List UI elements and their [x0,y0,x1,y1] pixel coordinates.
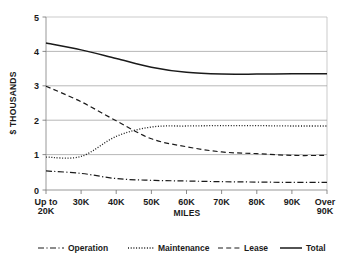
y-tick-label: 1 [34,150,39,160]
y-tick-label: 3 [34,81,39,91]
line-chart-figure: 5 4 3 2 1 0 $ THOUSANDS Up to 20K 30K 40… [0,0,344,267]
x-tick-label: 50K [143,197,160,207]
legend-label-operation: Operation [68,243,108,253]
y-tick-label: 2 [34,116,39,126]
y-tick-label: 4 [34,47,39,57]
legend-label-lease: Lease [244,243,268,253]
x-tick-label: 90K [284,197,301,207]
legend-label-total: Total [306,243,326,253]
chart-container: 5 4 3 2 1 0 $ THOUSANDS Up to 20K 30K 40… [0,0,344,267]
legend-label-maintenance: Maintenance [158,243,210,253]
x-tick-label: 80K [249,197,266,207]
y-axis-title: $ THOUSANDS [8,71,18,134]
y-tick-label: 5 [34,13,39,23]
x-tick-label-line2: 20K [38,206,55,216]
x-tick-label: 30K [73,197,90,207]
y-tick-label: 0 [34,186,39,196]
chart-background [0,0,344,267]
x-tick-label: 60K [178,197,195,207]
x-tick-label-line2: 90K [317,206,334,216]
x-tick-label: 70K [213,197,230,207]
x-axis-title: MILES [174,208,201,218]
x-tick-label: 40K [108,197,125,207]
